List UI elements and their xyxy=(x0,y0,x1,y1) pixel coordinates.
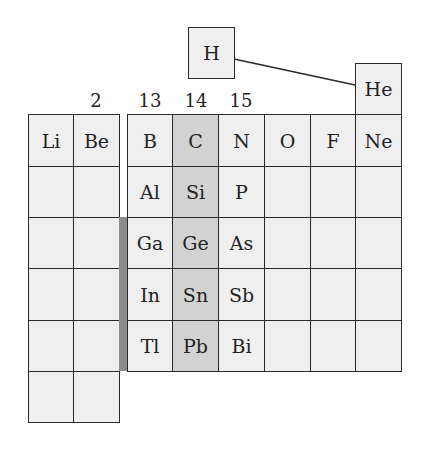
element-cell-in: In xyxy=(127,268,173,321)
empty-cell xyxy=(73,371,120,423)
group-label-15: 15 xyxy=(230,90,253,111)
element-cell-o: O xyxy=(264,114,311,167)
empty-cell xyxy=(355,166,402,218)
empty-cell xyxy=(355,320,402,372)
group-label-2: 2 xyxy=(90,90,101,111)
element-cell-ne: Ne xyxy=(355,114,402,167)
element-cell-tl: Tl xyxy=(127,320,173,372)
empty-cell xyxy=(310,217,356,269)
empty-cell xyxy=(310,320,356,372)
element-cell-h: H xyxy=(188,27,235,79)
group-label-13: 13 xyxy=(139,90,162,111)
element-cell-as: As xyxy=(218,217,265,269)
element-cell-sn: Sn xyxy=(172,268,219,321)
element-cell-ga: Ga xyxy=(127,217,173,269)
element-cell-he: He xyxy=(355,63,402,115)
empty-cell xyxy=(264,166,311,218)
element-cell-f: F xyxy=(310,114,356,167)
empty-cell xyxy=(28,268,74,321)
empty-cell xyxy=(355,268,402,321)
element-cell-sb: Sb xyxy=(218,268,265,321)
element-cell-c: C xyxy=(172,114,219,167)
element-cell-al: Al xyxy=(127,166,173,218)
element-cell-ge: Ge xyxy=(172,217,219,269)
element-cell-bi: Bi xyxy=(218,320,265,372)
element-cell-be: Be xyxy=(73,114,120,167)
empty-cell xyxy=(264,217,311,269)
element-cell-n: N xyxy=(218,114,265,167)
element-cell-p: P xyxy=(218,166,265,218)
element-cell-si: Si xyxy=(172,166,219,218)
empty-cell xyxy=(28,320,74,372)
empty-cell xyxy=(28,371,74,423)
empty-cell xyxy=(28,166,74,218)
element-cell-pb: Pb xyxy=(172,320,219,372)
empty-cell xyxy=(73,217,120,269)
empty-cell xyxy=(28,217,74,269)
empty-cell xyxy=(73,166,120,218)
empty-cell xyxy=(310,166,356,218)
empty-cell xyxy=(73,268,120,321)
group-label-14: 14 xyxy=(185,90,208,111)
element-cell-li: Li xyxy=(28,114,74,167)
empty-cell xyxy=(355,217,402,269)
empty-cell xyxy=(73,320,120,372)
element-cell-b: B xyxy=(127,114,173,167)
empty-cell xyxy=(310,268,356,321)
empty-cell xyxy=(264,268,311,321)
transition-metal-gap-bar xyxy=(119,217,127,371)
empty-cell xyxy=(264,320,311,372)
